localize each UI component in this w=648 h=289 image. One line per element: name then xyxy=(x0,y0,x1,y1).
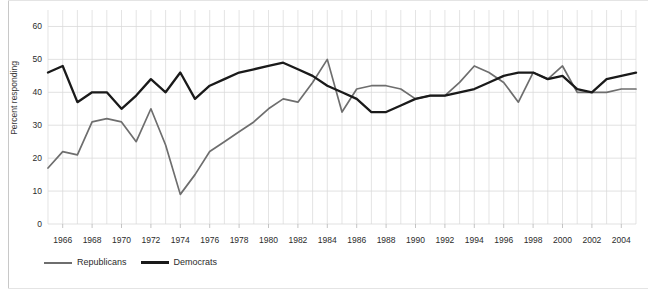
legend-swatch-icon xyxy=(44,262,72,264)
legend-item-democrats[interactable]: Democrats xyxy=(141,258,218,267)
chart-figure: Percent responding 0102030405060 1966196… xyxy=(0,0,648,289)
legend-swatch-icon xyxy=(141,261,169,264)
gridlines-minor xyxy=(48,10,636,224)
plot-area xyxy=(0,0,648,289)
chart-legend: RepublicansDemocrats xyxy=(44,258,217,267)
legend-label: Republicans xyxy=(77,258,127,267)
legend-label: Democrats xyxy=(174,258,218,267)
legend-item-republicans[interactable]: Republicans xyxy=(44,258,127,267)
